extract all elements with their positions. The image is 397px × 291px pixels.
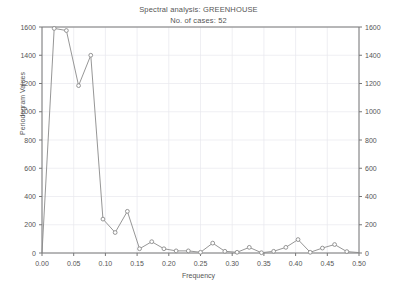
svg-text:1200: 1200 <box>20 80 36 87</box>
svg-text:400: 400 <box>24 193 36 200</box>
svg-text:1400: 1400 <box>365 52 381 59</box>
svg-text:200: 200 <box>24 221 36 228</box>
svg-text:0.45: 0.45 <box>320 260 334 267</box>
svg-text:1600: 1600 <box>365 24 381 31</box>
spectral-analysis-chart: Spectral analysis: GREENHOUSE No. of cas… <box>0 0 397 291</box>
svg-text:800: 800 <box>365 137 377 144</box>
svg-text:0.05: 0.05 <box>67 260 81 267</box>
svg-text:1200: 1200 <box>365 80 381 87</box>
plot-area: 0.000.050.100.150.200.250.300.350.400.45… <box>0 0 397 291</box>
svg-text:800: 800 <box>24 137 36 144</box>
gridlines <box>42 27 359 253</box>
svg-text:400: 400 <box>365 193 377 200</box>
svg-text:0.30: 0.30 <box>225 260 239 267</box>
svg-text:0.20: 0.20 <box>162 260 176 267</box>
svg-text:1600: 1600 <box>20 24 36 31</box>
svg-text:0.00: 0.00 <box>35 260 49 267</box>
svg-text:600: 600 <box>24 165 36 172</box>
svg-text:0.10: 0.10 <box>99 260 113 267</box>
svg-text:200: 200 <box>365 221 377 228</box>
svg-text:1000: 1000 <box>365 108 381 115</box>
svg-text:0.35: 0.35 <box>257 260 271 267</box>
svg-text:1400: 1400 <box>20 52 36 59</box>
svg-text:0.15: 0.15 <box>130 260 144 267</box>
svg-text:0: 0 <box>32 250 36 257</box>
svg-text:0: 0 <box>365 250 369 257</box>
svg-text:1000: 1000 <box>20 108 36 115</box>
svg-text:600: 600 <box>365 165 377 172</box>
svg-text:0.50: 0.50 <box>352 260 366 267</box>
svg-text:0.25: 0.25 <box>194 260 208 267</box>
svg-text:0.40: 0.40 <box>289 260 303 267</box>
